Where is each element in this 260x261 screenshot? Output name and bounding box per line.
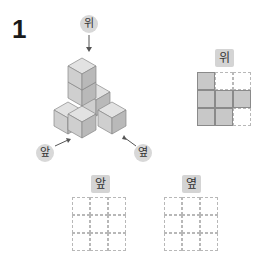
grid-cell[interactable] <box>108 233 126 251</box>
side-view-label: 옆 <box>182 175 201 193</box>
grid-cell[interactable] <box>90 197 108 215</box>
front-direction-label: 앞 <box>36 144 54 162</box>
grid-cell[interactable] <box>108 215 126 233</box>
grid-cell[interactable] <box>200 215 218 233</box>
grid-cell <box>197 108 215 126</box>
grid-cell[interactable] <box>90 233 108 251</box>
grid-cell[interactable] <box>200 233 218 251</box>
grid-cell <box>233 108 251 126</box>
grid-cell <box>197 72 215 90</box>
grid-cell <box>197 90 215 108</box>
grid-cell[interactable] <box>200 197 218 215</box>
grid-cell[interactable] <box>182 197 200 215</box>
grid-cell[interactable] <box>108 197 126 215</box>
front-view-label: 앞 <box>91 175 110 193</box>
side-view-grid[interactable] <box>164 197 218 251</box>
grid-cell[interactable] <box>72 197 90 215</box>
grid-cell <box>215 108 233 126</box>
isometric-cube-figure <box>0 0 260 261</box>
grid-cell <box>215 72 233 90</box>
grid-cell[interactable] <box>164 197 182 215</box>
grid-cell <box>233 90 251 108</box>
grid-cell[interactable] <box>182 233 200 251</box>
top-view-grid <box>197 72 251 126</box>
grid-cell[interactable] <box>90 215 108 233</box>
grid-cell[interactable] <box>164 233 182 251</box>
grid-cell[interactable] <box>72 233 90 251</box>
front-view-grid[interactable] <box>72 197 126 251</box>
grid-cell <box>215 90 233 108</box>
top-view-label: 위 <box>215 49 234 67</box>
side-direction-label: 옆 <box>134 144 152 162</box>
grid-cell <box>233 72 251 90</box>
grid-cell[interactable] <box>72 215 90 233</box>
grid-cell[interactable] <box>164 215 182 233</box>
grid-cell[interactable] <box>182 215 200 233</box>
top-direction-label: 위 <box>80 15 98 33</box>
